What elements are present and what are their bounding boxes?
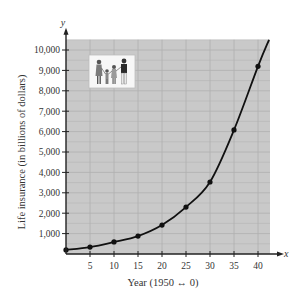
x-tick-label: 15 (133, 261, 143, 271)
x-axis-variable: x (283, 248, 289, 259)
y-tick-label: 5,000 (39, 147, 61, 157)
y-axis-label: Life insurance (in billions of dollars) (16, 74, 28, 229)
y-tick-label: 4,000 (39, 168, 61, 178)
x-tick-label: 20 (157, 261, 167, 271)
data-point (87, 244, 92, 249)
y-tick-label: 2,000 (39, 209, 61, 219)
y-tick-label: 8,000 (39, 86, 61, 96)
x-tick-label: 10 (109, 261, 119, 271)
data-point (231, 127, 236, 132)
data-point (183, 204, 188, 209)
data-point (111, 239, 116, 244)
x-tick-label: 35 (229, 261, 239, 271)
x-tick-label: 40 (253, 261, 263, 271)
data-point (207, 179, 212, 184)
y-tick-label: 3,000 (39, 188, 61, 198)
y-tick-label: 6,000 (39, 127, 61, 137)
family-illustration (89, 55, 135, 88)
data-point (135, 233, 140, 238)
life-insurance-chart: 5101520253035401,0002,0003,0004,0005,000… (0, 0, 300, 302)
y-tick-label: 10,000 (34, 45, 60, 55)
data-point (255, 64, 260, 69)
x-axis-label: Year (1950 ↔ 0) (128, 277, 199, 289)
y-axis-variable: y (60, 17, 66, 28)
x-tick-label: 5 (88, 261, 93, 271)
y-tick-label: 7,000 (39, 107, 61, 117)
y-axis-arrow-icon (64, 28, 69, 35)
data-point (159, 222, 164, 227)
x-tick-label: 25 (181, 261, 191, 271)
x-axis-arrow-icon (277, 252, 284, 257)
y-tick-label: 9,000 (39, 66, 61, 76)
y-tick-label: 1,000 (39, 229, 61, 239)
x-tick-label: 30 (205, 261, 215, 271)
